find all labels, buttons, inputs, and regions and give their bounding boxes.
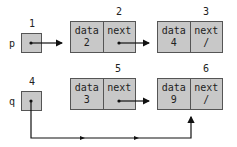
arrows-layer (0, 0, 237, 147)
arrow-p-to-node-2 (29, 41, 62, 44)
arrow-q-to-node-6 (29, 99, 191, 140)
arrow-node-2-to-node-3 (117, 41, 149, 44)
arrow-node-5-to-node-6 (117, 99, 149, 102)
